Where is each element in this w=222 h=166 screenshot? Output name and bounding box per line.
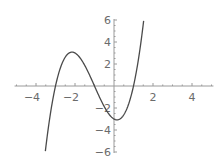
axes [15,19,214,153]
y-tick-label: 6 [104,14,111,27]
function-plot: −4−224642−2−4−6 [0,0,222,166]
x-tick-label: 2 [150,91,157,104]
y-tick-label: 2 [104,58,111,71]
x-tick-label: 4 [189,91,196,104]
x-tick-label: −2 [63,91,79,104]
y-tick-label: −6 [95,146,111,159]
y-tick-label: 4 [104,36,111,49]
x-tick-label: −4 [24,91,40,104]
y-tick-label: −4 [95,124,111,137]
